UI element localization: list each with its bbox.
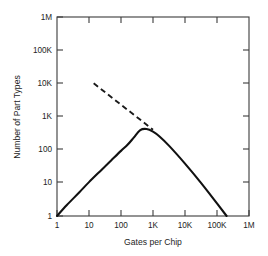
x-tick-label-100k: 100K <box>207 221 227 230</box>
x-tick-label-10: 10 <box>84 221 94 230</box>
x-tick-label-1m: 1M <box>243 221 255 230</box>
x-tick-label-1: 1 <box>55 221 60 230</box>
chart-canvas: 1M 100K 10K 1K 100 10 1 1 10 100 1K 10K … <box>0 0 268 256</box>
x-tick-label-10k: 10K <box>178 221 193 230</box>
y-tick-label-100: 100 <box>38 145 52 154</box>
chart-figure: 1M 100K 10K 1K 100 10 1 1 10 100 1K 10K … <box>0 0 268 256</box>
y-axis-title: Number of Part Types <box>12 75 22 158</box>
x-tick-label-100: 100 <box>114 221 128 230</box>
y-tick-label-1: 1 <box>47 212 52 221</box>
y-tick-label-10: 10 <box>43 178 53 187</box>
x-axis-title: Gates per Chip <box>124 237 182 247</box>
y-tick-label-10k: 10K <box>37 79 52 88</box>
x-tick-label-1k: 1K <box>148 221 159 230</box>
y-tick-label-100k: 100K <box>33 46 53 55</box>
y-tick-label-1m: 1M <box>41 13 53 22</box>
y-tick-label-1k: 1K <box>42 112 53 121</box>
